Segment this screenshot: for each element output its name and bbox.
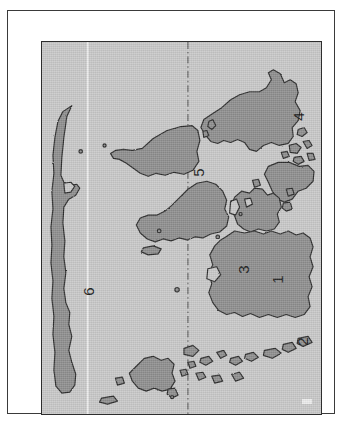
region-label-6: 6 [81,287,96,295]
region-label-3: 3 [236,265,251,273]
figure-outer-frame: 1 2 3 4 5 6 7 [7,10,335,414]
region-label-2: 2 [295,337,310,345]
page-artifact-speck [302,399,312,404]
region-label-1: 1 [270,275,285,283]
scan-grain-overlay [42,42,321,414]
map-canvas [42,42,321,414]
region-label-5: 5 [191,168,206,176]
region-label-4: 4 [291,112,306,120]
map-panel[interactable]: 1 2 3 4 5 6 7 [41,41,322,415]
